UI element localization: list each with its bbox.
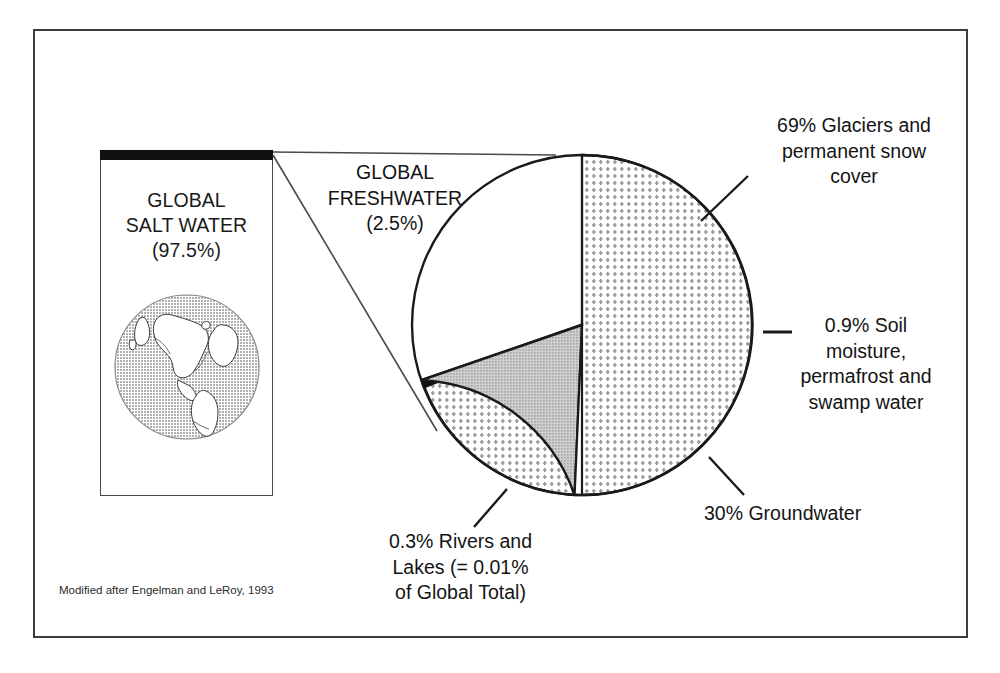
groundwater-line-1: 30% Groundwater (704, 501, 954, 527)
glaciers-line-3: cover (740, 164, 968, 190)
soil-line-2: moisture, (768, 339, 964, 365)
figure-credit: Modified after Engelman and LeRoy, 1993 (59, 583, 274, 597)
soil-line-3: permafrost and (768, 364, 964, 390)
freshwater-pie-chart (402, 145, 762, 505)
rivers-line-3: of Global Total) (338, 580, 583, 606)
salt-title-line-2: SALT WATER (100, 213, 273, 238)
label-groundwater: 30% Groundwater (704, 501, 954, 527)
glaciers-line-1: 69% Glaciers and (740, 113, 968, 139)
salt-water-top-bar (100, 150, 273, 160)
label-soil-moisture: 0.9% Soil moisture, permafrost and swamp… (768, 313, 964, 415)
glaciers-line-2: permanent snow (740, 139, 968, 165)
salt-title-line-3: (97.5%) (100, 238, 273, 263)
salt-title-line-1: GLOBAL (100, 188, 273, 213)
water-distribution-figure: GLOBAL SALT WATER (97.5%) (0, 0, 1000, 673)
rivers-line-2: Lakes (= 0.01% (338, 555, 583, 581)
global-salt-water-title: GLOBAL SALT WATER (97.5%) (100, 188, 273, 263)
soil-line-4: swamp water (768, 390, 964, 416)
rivers-line-1: 0.3% Rivers and (338, 529, 583, 555)
soil-line-1: 0.9% Soil (768, 313, 964, 339)
label-rivers-lakes: 0.3% Rivers and Lakes (= 0.01% of Global… (338, 529, 583, 606)
label-glaciers: 69% Glaciers and permanent snow cover (740, 113, 968, 190)
globe-icon (108, 288, 266, 446)
